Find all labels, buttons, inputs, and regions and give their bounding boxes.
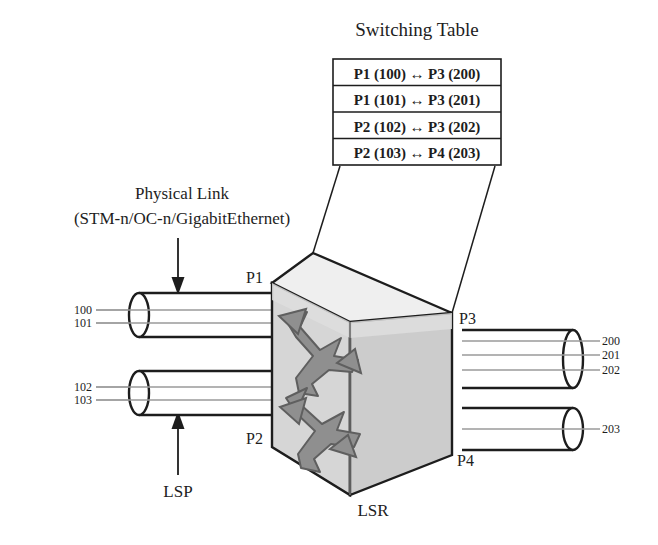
- label-out-201: 201: [602, 348, 620, 362]
- port-label-p1: P1: [246, 269, 263, 286]
- physical-link-label-line2: (STM-n/OC-n/GigabitEthernet): [74, 209, 290, 228]
- egress-labels-upper: 200 201 202: [602, 334, 620, 377]
- label-in-102: 102: [74, 380, 92, 394]
- mpls-lsr-diagram: Switching Table P1 (100) ↔ P3 (200) P1 (…: [0, 0, 658, 545]
- port-label-p3: P3: [459, 310, 476, 327]
- label-out-200: 200: [602, 334, 620, 348]
- lsr-label: LSR: [357, 501, 389, 520]
- label-in-103: 103: [74, 393, 92, 407]
- lsp-label: LSP: [163, 482, 192, 501]
- table-row: P1 (101) ↔ P3 (201): [354, 92, 481, 109]
- ingress-pipe-upper: [129, 293, 272, 337]
- switching-table-title: Switching Table: [355, 19, 478, 40]
- label-out-202: 202: [602, 363, 620, 377]
- label-out-203: 203: [602, 422, 620, 436]
- egress-labels-lower: 203: [602, 422, 620, 436]
- ingress-labels-lower: 102 103: [74, 380, 92, 407]
- ingress-labels-upper: 100 101: [74, 303, 92, 330]
- port-label-p4: P4: [457, 452, 474, 469]
- label-in-101: 101: [74, 316, 92, 330]
- label-in-100: 100: [74, 303, 92, 317]
- port-label-p2: P2: [246, 430, 263, 447]
- physical-link-label-line1: Physical Link: [135, 184, 229, 203]
- table-row: P2 (102) ↔ P3 (202): [354, 119, 481, 136]
- table-row: P1 (100) ↔ P3 (200): [354, 66, 481, 83]
- egress-pipe-upper: [462, 330, 583, 388]
- table-row: P2 (103) ↔ P4 (203): [354, 145, 481, 162]
- ingress-pipe-lower: [129, 371, 272, 415]
